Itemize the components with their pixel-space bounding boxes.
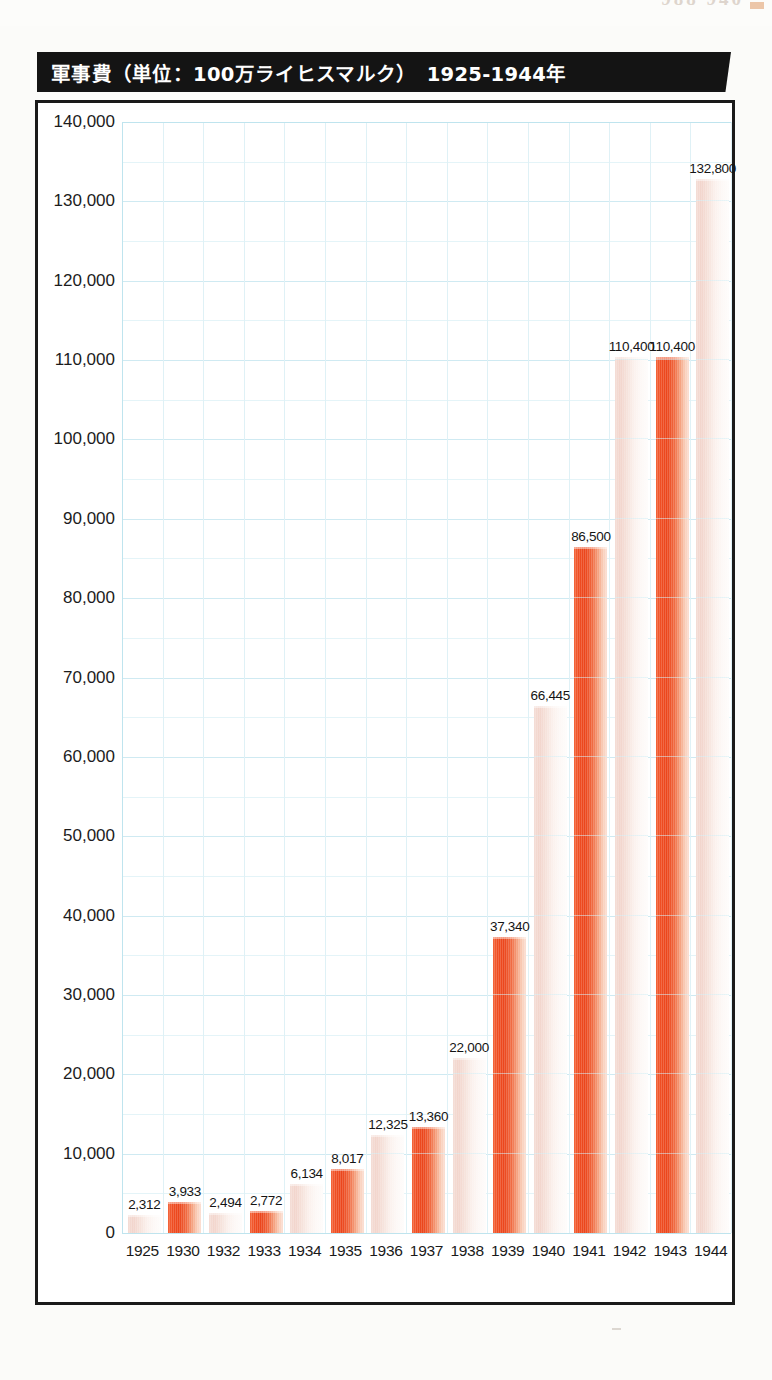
- bar-top-highlight: [128, 1215, 161, 1217]
- x-axis-tick-label-1935: 1935: [325, 1242, 366, 1260]
- bar-1937: [412, 1127, 445, 1233]
- bar-1925: [128, 1215, 161, 1233]
- x-axis-tick-label-1939: 1939: [487, 1242, 528, 1260]
- bar-fill: [331, 1169, 364, 1233]
- x-axis-tick-label-1925: 1925: [122, 1242, 163, 1260]
- data-label-1933: 2,772: [236, 1193, 296, 1208]
- bar-1940: [534, 706, 567, 1233]
- y-axis-tick-label: 20,000: [63, 1064, 115, 1084]
- bar-1943: [656, 357, 689, 1233]
- y-axis-tick-label: 10,000: [63, 1144, 115, 1164]
- bar-1933: [250, 1211, 283, 1233]
- x-axis-tick-label-1941: 1941: [569, 1242, 610, 1260]
- bar-top-highlight: [534, 706, 567, 708]
- bar-top-highlight: [331, 1169, 364, 1171]
- y-axis-tick-label: 120,000: [54, 271, 115, 291]
- bar-top-highlight: [209, 1213, 242, 1215]
- data-label-1940: 66,445: [520, 688, 580, 703]
- y-axis-tick-label: 100,000: [54, 429, 115, 449]
- bar-top-highlight: [412, 1127, 445, 1129]
- y-axis-tick-label: 110,000: [55, 350, 115, 370]
- y-axis-tick-label: 140,000: [54, 112, 115, 132]
- y-axis-tick-label: 70,000: [63, 668, 115, 688]
- bar-fill: [209, 1213, 242, 1233]
- data-label-1939: 37,340: [480, 919, 540, 934]
- y-axis-tick-label: 50,000: [63, 826, 115, 846]
- y-axis-tick-label: 40,000: [63, 906, 115, 926]
- chart-title-banner: 軍事費（単位：100万ライヒスマルク） 1925-1944年: [37, 52, 731, 92]
- x-axis-tick-label-1934: 1934: [284, 1242, 325, 1260]
- y-axis-tick-label: 0: [106, 1223, 115, 1243]
- x-axis: 1925193019321933193419351936193719381939…: [122, 1236, 731, 1260]
- x-axis-tick-label-1936: 1936: [366, 1242, 407, 1260]
- x-axis-tick-label-1940: 1940: [528, 1242, 569, 1260]
- page-speck: [612, 1328, 621, 1330]
- y-axis-tick-label: 130,000: [54, 191, 115, 211]
- data-label-1935: 8,017: [317, 1151, 377, 1166]
- bar-top-highlight: [493, 937, 526, 939]
- bar-fill: [493, 937, 526, 1233]
- y-axis-tick-label: 90,000: [63, 509, 115, 529]
- bar-fill: [615, 357, 648, 1233]
- scan-bleed-strip: 988 940: [0, 0, 772, 26]
- axis-baseline: [122, 1233, 731, 1234]
- x-axis-tick-label-1942: 1942: [609, 1242, 650, 1260]
- x-axis-tick-label-1930: 1930: [163, 1242, 204, 1260]
- bar-fill: [371, 1135, 404, 1233]
- bar-top-highlight: [656, 357, 689, 359]
- bar-top-highlight: [453, 1058, 486, 1060]
- x-axis-tick-label-1933: 1933: [244, 1242, 285, 1260]
- bar-fill: [412, 1127, 445, 1233]
- bar-1942: [615, 357, 648, 1233]
- bar-fill: [453, 1058, 486, 1233]
- bar-top-highlight: [574, 547, 607, 549]
- bar-1935: [331, 1169, 364, 1233]
- bar-top-highlight: [371, 1135, 404, 1137]
- bar-1932: [209, 1213, 242, 1233]
- bar-fill: [696, 179, 729, 1233]
- x-axis-tick-label-1943: 1943: [650, 1242, 691, 1260]
- bar-top-highlight: [615, 357, 648, 359]
- bar-fill: [534, 706, 567, 1233]
- bar-1936: [371, 1135, 404, 1233]
- bar-top-highlight: [696, 179, 729, 181]
- y-axis: 140,000130,000120,000110,000100,00090,00…: [38, 122, 115, 1233]
- gridline-vertical: [731, 122, 732, 1233]
- x-axis-tick-label-1938: 1938: [447, 1242, 488, 1260]
- bar-top-highlight: [290, 1184, 323, 1186]
- bar-fill: [656, 357, 689, 1233]
- data-label-1943: 110,400: [642, 339, 702, 354]
- y-axis-tick-label: 80,000: [63, 588, 115, 608]
- data-label-1934: 6,134: [277, 1166, 337, 1181]
- bleed-text: 988 940: [661, 0, 744, 10]
- bleed-square-mark: [750, 2, 764, 9]
- x-axis-tick-label-1937: 1937: [406, 1242, 447, 1260]
- bar-fill: [250, 1211, 283, 1233]
- data-label-1941: 86,500: [561, 529, 621, 544]
- y-axis-tick-label: 30,000: [63, 985, 115, 1005]
- figure-frame: 140,000130,000120,000110,000100,00090,00…: [35, 100, 735, 1305]
- bar-top-highlight: [250, 1211, 283, 1213]
- x-axis-tick-label-1944: 1944: [690, 1242, 731, 1260]
- plot-area: 2,3123,9332,4942,7726,1348,01712,32513,3…: [122, 122, 731, 1233]
- bar-fill: [290, 1184, 323, 1233]
- data-label-1937: 13,360: [399, 1109, 459, 1124]
- data-label-1944: 132,800: [683, 161, 743, 176]
- bar-1939: [493, 937, 526, 1233]
- chart-title: 軍事費（単位：100万ライヒスマルク） 1925-1944年: [51, 58, 566, 87]
- bar-fill: [574, 547, 607, 1233]
- data-label-1925: 2,312: [114, 1197, 174, 1212]
- bar-1938: [453, 1058, 486, 1233]
- bar-1934: [290, 1184, 323, 1233]
- data-label-1938: 22,000: [439, 1040, 499, 1055]
- y-axis-tick-label: 60,000: [63, 747, 115, 767]
- bar-1941: [574, 547, 607, 1233]
- bar-fill: [128, 1215, 161, 1233]
- x-axis-tick-label-1932: 1932: [203, 1242, 244, 1260]
- bar-1944: [696, 179, 729, 1233]
- bars-layer: 2,3123,9332,4942,7726,1348,01712,32513,3…: [122, 122, 731, 1233]
